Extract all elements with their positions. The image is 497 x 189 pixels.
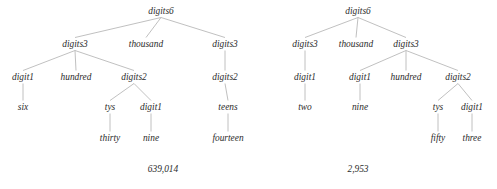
tree-edge (75, 51, 76, 71)
tree-node-label: digits6 (345, 6, 371, 16)
tree-caption: 2,953 (347, 164, 368, 174)
tree-node-label: digit1 (140, 102, 162, 112)
tree-node-label: thousand (339, 39, 374, 49)
tree-edge (134, 84, 151, 101)
tree-edge (438, 84, 458, 101)
tree-node-label: hundred (61, 72, 92, 82)
tree-edge (458, 84, 472, 101)
tree-node-label: digits6 (148, 6, 174, 16)
tree-node-label: digits3 (393, 39, 419, 49)
parse-tree-canvas: digits6digits3thousanddigits3digit1hundr… (0, 0, 497, 189)
tree-edge (305, 18, 358, 38)
tree-node-label: thousand (129, 39, 164, 49)
tree-node-label: digit1 (461, 102, 483, 112)
tree-edge (358, 18, 406, 38)
tree-node-label: three (463, 133, 482, 143)
tree-nodes: digits6digits3thousanddigits3digit1digit… (292, 6, 483, 143)
tree-edge (110, 84, 134, 101)
parse-tree-figure: digits6digits3thousanddigits3digit1hundr… (0, 0, 497, 189)
tree-node-label: tys (433, 102, 444, 112)
tree-edge (356, 18, 358, 38)
tree-node-label: hundred (391, 72, 422, 82)
tree-edge (225, 84, 228, 101)
tree-node-label: digits2 (121, 72, 147, 82)
tree-node-label: two (298, 102, 312, 112)
tree-node-label: digits3 (212, 39, 238, 49)
tree-node-label: teens (218, 102, 238, 112)
tree-node-label: digits2 (445, 72, 471, 82)
tree-nodes: digits6digits3thousanddigits3digit1hundr… (12, 6, 244, 143)
tree-node-label: thirty (100, 133, 121, 143)
tree-node-label: digit1 (349, 72, 371, 82)
tree-node-label: six (18, 102, 29, 112)
tree-edge (75, 51, 134, 71)
tree-node-label: fifty (431, 133, 446, 143)
tree-edge (23, 51, 75, 71)
tree-node-label: digits3 (292, 39, 318, 49)
tree-edge (360, 51, 406, 71)
tree-edge (161, 18, 225, 38)
tree-node-label: nine (143, 133, 159, 143)
tree-edge (406, 51, 458, 71)
right-parse-tree: digits6digits3thousanddigits3digit1digit… (292, 6, 483, 174)
tree-node-label: digit1 (12, 72, 34, 82)
tree-node-label: nine (352, 102, 368, 112)
tree-node-label: fourteen (212, 133, 244, 143)
tree-caption: 639,014 (148, 164, 179, 174)
tree-node-label: tys (105, 102, 116, 112)
tree-node-label: digit1 (294, 72, 316, 82)
left-parse-tree: digits6digits3thousanddigits3digit1hundr… (12, 6, 244, 174)
tree-node-label: digits2 (212, 72, 238, 82)
tree-node-label: digits3 (62, 39, 88, 49)
